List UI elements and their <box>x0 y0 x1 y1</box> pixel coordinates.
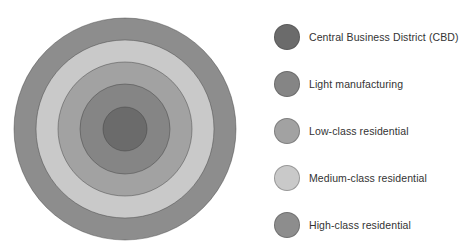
zone-cbd <box>103 107 147 151</box>
legend-item-low-class-residential: Low-class residential <box>274 117 409 145</box>
concentric-zone-diagram <box>0 0 260 248</box>
legend-label: Medium-class residential <box>309 172 427 184</box>
cbd-swatch-icon <box>274 24 300 50</box>
legend-label: High-class residential <box>309 219 411 231</box>
legend-label: Light manufacturing <box>309 78 403 90</box>
light-manufacturing-swatch-icon <box>274 71 300 97</box>
legend-item-medium-class-residential: Medium-class residential <box>274 164 427 192</box>
high-class-residential-swatch-icon <box>274 212 300 238</box>
legend-label: Central Business District (CBD) <box>309 31 459 43</box>
legend-item-high-class-residential: High-class residential <box>274 211 411 239</box>
legend-item-cbd: Central Business District (CBD) <box>274 23 459 51</box>
legend: Central Business District (CBD) Light ma… <box>270 0 461 248</box>
legend-label: Low-class residential <box>309 125 409 137</box>
medium-class-residential-swatch-icon <box>274 165 300 191</box>
legend-item-light-manufacturing: Light manufacturing <box>274 70 403 98</box>
low-class-residential-swatch-icon <box>274 118 300 144</box>
